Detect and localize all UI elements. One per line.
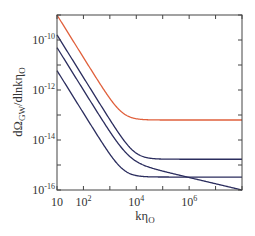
x-tick-label: 104	[128, 194, 144, 209]
axis-ticks	[57, 15, 242, 190]
blue-curve-1	[57, 35, 242, 159]
x-tick-label: 10	[51, 195, 63, 209]
plot-curves	[57, 15, 242, 190]
y-tick-label: 10-12	[32, 82, 55, 97]
blue-curve-2	[57, 48, 242, 190]
x-tick-labels: 10102104106	[51, 194, 197, 209]
y-tick-label: 10-14	[32, 132, 55, 147]
x-tick-label: 102	[75, 194, 91, 209]
plot-frame	[57, 15, 242, 190]
x-axis-title: kηO	[135, 209, 155, 225]
chart: 10102104106 10-1010-1210-1410-16 kηO dΩG…	[0, 0, 255, 236]
red-curve	[57, 15, 242, 120]
blue-curve-3	[57, 71, 242, 177]
y-tick-label: 10-10	[32, 32, 55, 47]
y-tick-labels: 10-1010-1210-1410-16	[32, 32, 55, 197]
x-tick-label: 106	[181, 194, 197, 209]
y-axis-title: dΩGW/dlnkηO	[11, 67, 27, 137]
